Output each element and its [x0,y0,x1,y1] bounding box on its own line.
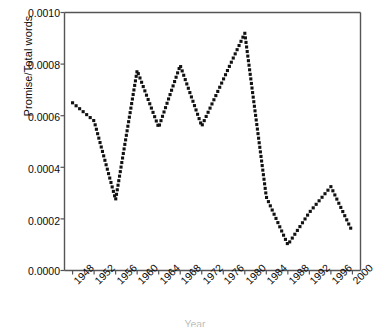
data-point [288,240,291,243]
data-point [107,172,110,175]
data-point [112,190,115,193]
data-point [109,181,112,184]
data-point [164,106,167,109]
data-point [255,118,258,121]
data-point [132,93,135,96]
data-point [208,107,211,110]
data-point [249,73,252,76]
data-point [234,52,237,55]
data-point [150,107,153,110]
data-point [89,116,92,119]
data-point [117,179,120,182]
data-point [321,196,324,199]
plot-frame [65,13,361,271]
data-point [339,206,342,209]
data-point [259,155,262,158]
data-point [261,164,264,167]
data-point [116,184,119,187]
data-point [118,175,121,178]
data-point [133,84,136,87]
data-point [228,65,231,68]
data-point [126,125,129,128]
data-point [120,161,123,164]
data-point [122,152,125,155]
data-point [203,119,206,122]
data-point [247,59,250,62]
data-point [323,192,326,195]
data-point [196,113,199,116]
data-point [345,218,348,221]
data-point [230,61,233,64]
data-point [269,204,272,207]
data-point [127,120,130,123]
data-point [97,137,100,140]
data-point [246,55,249,58]
data-point [262,173,265,176]
data-point [207,111,210,114]
data-point [347,222,350,225]
data-point [132,88,135,91]
data-point [331,189,334,192]
data-point [253,105,256,108]
data-point [244,41,247,44]
data-point [326,189,329,192]
data-point [85,113,88,116]
data-point [130,102,133,105]
data-point [175,76,178,79]
data-point [265,196,268,199]
data-point [254,114,257,117]
y-tick-label: 0.0004 [6,164,60,174]
data-point [170,89,173,92]
data-point [151,111,154,114]
data-point [182,74,185,77]
data-point [102,154,105,157]
data-point [276,221,279,224]
data-point [306,214,309,217]
data-point [249,77,252,80]
data-point [333,193,336,196]
data-point [101,150,104,153]
data-point [100,145,103,148]
data-point [312,206,315,209]
data-point [271,208,274,211]
data-point [260,159,263,162]
data-point [245,45,248,48]
chart-figure: Promise/Total words 0.0010 0.0008 0.0006… [0,0,390,330]
data-point [106,168,109,171]
data-point [284,238,287,241]
data-point [119,170,122,173]
data-point [82,110,85,113]
data-point [250,82,253,85]
data-point [114,197,117,200]
data-point [251,91,254,94]
data-point [123,147,126,150]
y-tick-label: 0.0000 [6,266,60,276]
data-point [125,134,128,137]
data-point [137,72,140,75]
data-point [126,129,129,132]
data-point [185,82,188,85]
data-point [329,185,332,188]
data-point [343,214,346,217]
data-point [135,75,138,78]
data-point [92,119,95,122]
data-point [273,213,276,216]
data-point [129,111,132,114]
data-point [121,156,124,159]
data-point [298,225,301,228]
y-tick-label: 0.0006 [6,112,60,122]
data-point [236,48,239,51]
data-point [238,44,241,47]
data-point [258,141,261,144]
data-point [95,128,98,131]
data-point [153,115,156,118]
data-point [162,110,165,113]
data-point [264,191,267,194]
data-point [167,97,170,100]
data-point [218,86,221,89]
data-point [124,138,127,141]
data-point [315,203,318,206]
y-axis-tick-labels: 0.0010 0.0008 0.0006 0.0004 0.0002 0.000… [0,0,60,330]
data-point [123,143,126,146]
data-point [161,115,164,118]
